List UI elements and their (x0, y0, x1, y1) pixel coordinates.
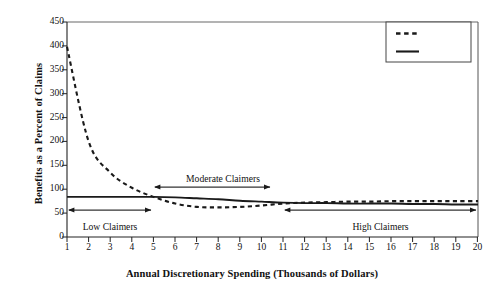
y-axis-ticks (62, 22, 67, 237)
chart-figure: Benefits as a Percent of Claims 450 400 … (0, 0, 504, 297)
series-line-msa (67, 47, 478, 208)
annotation-arrows (69, 187, 476, 210)
chart-canvas (0, 0, 504, 297)
x-axis-ticks (67, 237, 477, 242)
legend-box (386, 22, 471, 62)
